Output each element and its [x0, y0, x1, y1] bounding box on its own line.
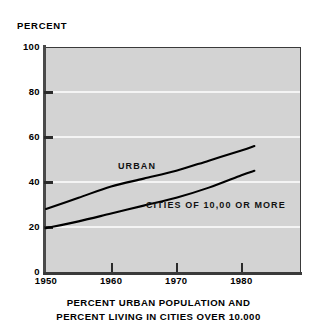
x-tick-mark — [176, 263, 178, 272]
gridline — [46, 91, 300, 93]
y-tick-label: 40 — [14, 176, 40, 187]
caption-line-1: PERCENT URBAN POPULATION AND — [0, 296, 317, 310]
y-tick-mark — [44, 181, 53, 184]
x-tick-label: 1960 — [91, 275, 131, 286]
y-tick-label: 80 — [14, 86, 40, 97]
y-tick-label: 60 — [14, 131, 40, 142]
series-label-urban: URBAN — [118, 161, 156, 171]
x-tick-label: 1950 — [26, 275, 66, 286]
x-tick-label: 1970 — [156, 275, 196, 286]
y-tick-mark — [44, 136, 53, 139]
series-label-cities: CITIES OF 10,00 OR MORE — [146, 200, 286, 210]
gridline — [46, 136, 300, 138]
chart-caption: PERCENT URBAN POPULATION AND PERCENT LIV… — [0, 296, 317, 324]
chart-figure: PERCENT 020406080100 1950196019701980 UR… — [0, 0, 317, 327]
y-tick-label: 20 — [14, 221, 40, 232]
caption-line-2: PERCENT LIVING IN CITIES OVER 10.000 — [0, 310, 317, 324]
y-tick-label: 100 — [14, 41, 40, 52]
gridline — [46, 181, 300, 183]
x-tick-mark — [111, 263, 113, 272]
y-axis-title: PERCENT — [17, 20, 67, 31]
plot-area — [46, 47, 301, 273]
y-axis-line — [43, 45, 46, 274]
y-tick-mark — [44, 226, 53, 229]
x-tick-mark — [241, 263, 243, 272]
x-tick-label: 1980 — [221, 275, 261, 286]
gridline — [46, 226, 300, 228]
y-tick-mark — [44, 91, 53, 94]
